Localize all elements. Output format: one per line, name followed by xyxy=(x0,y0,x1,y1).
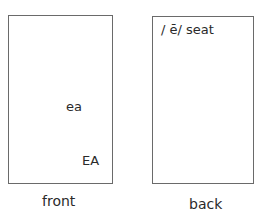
front-card: ea EA xyxy=(8,15,113,184)
back-phonics-text: / ē/ seat xyxy=(161,22,214,37)
back-caption: back xyxy=(189,196,222,211)
front-caption: front xyxy=(42,193,75,209)
back-card: / ē/ seat xyxy=(152,16,254,184)
front-uppercase-letters: EA xyxy=(82,153,99,168)
front-lowercase-letters: ea xyxy=(66,99,82,114)
